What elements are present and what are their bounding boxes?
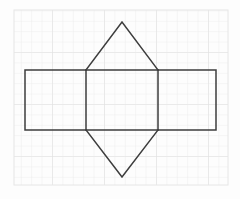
geometry-figure	[0, 0, 240, 199]
grid-paper-area	[14, 10, 228, 185]
screenshot-canvas	[0, 0, 240, 199]
grid-paper-group	[14, 10, 228, 185]
